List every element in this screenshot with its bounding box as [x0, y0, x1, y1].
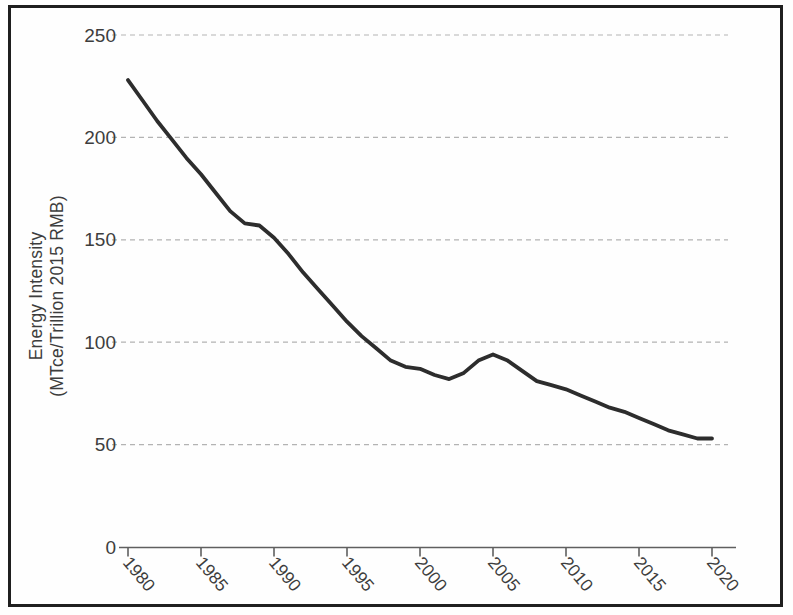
y-tick-label-150: 150	[84, 229, 116, 250]
y-axis-title-line1: Energy Intensity	[26, 195, 47, 397]
x-tick-label-1990: 1990	[265, 553, 306, 596]
y-tick-label-250: 250	[84, 25, 116, 46]
y-tick-label-0: 0	[105, 537, 116, 558]
x-tick-label-2010: 2010	[557, 553, 598, 596]
x-tick-label-2005: 2005	[484, 553, 524, 596]
x-tick-label-1980: 1980	[119, 553, 160, 596]
x-tick-label-1985: 1985	[192, 553, 232, 596]
x-tick-label-2020: 2020	[703, 553, 744, 596]
line-chart: 0501001502002501980198519901995200020052…	[0, 0, 793, 615]
x-tick-label-1995: 1995	[338, 553, 378, 596]
figure: 0501001502002501980198519901995200020052…	[0, 0, 793, 615]
x-tick-label-2015: 2015	[630, 553, 670, 596]
y-axis-title: Energy Intensity (MTce/Trillion 2015 RMB…	[26, 195, 67, 397]
y-tick-label-200: 200	[84, 127, 116, 148]
y-tick-label-50: 50	[95, 434, 116, 455]
y-tick-label-100: 100	[84, 332, 116, 353]
energy-intensity-line	[128, 80, 712, 438]
y-axis-title-line2: (MTce/Trillion 2015 RMB)	[47, 195, 68, 397]
x-tick-label-2000: 2000	[411, 553, 452, 596]
